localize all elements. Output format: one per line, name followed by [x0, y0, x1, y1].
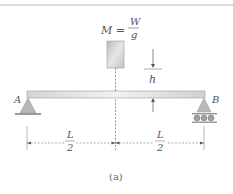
dimension-right-label: L 2	[154, 129, 166, 154]
svg-text:L: L	[66, 129, 74, 140]
svg-text:W: W	[130, 16, 141, 27]
svg-text:g: g	[131, 29, 137, 40]
support-roller-b: B	[192, 94, 219, 123]
svg-text:M =: M =	[100, 24, 125, 37]
mass-label: M = W g	[100, 16, 141, 40]
figure-caption: (a)	[109, 171, 123, 182]
svg-text:B: B	[211, 94, 219, 105]
svg-text:A: A	[13, 94, 21, 105]
svg-text:2: 2	[66, 142, 73, 153]
svg-text:2: 2	[156, 142, 163, 153]
svg-text:h: h	[149, 73, 156, 86]
beam	[27, 91, 205, 98]
mass-block	[107, 41, 124, 68]
height-indicator: h	[144, 49, 162, 112]
svg-text:L: L	[156, 129, 164, 140]
beam-impact-diagram: M = W g h A B	[0, 0, 233, 194]
dimension-left-label: L 2	[64, 129, 76, 154]
